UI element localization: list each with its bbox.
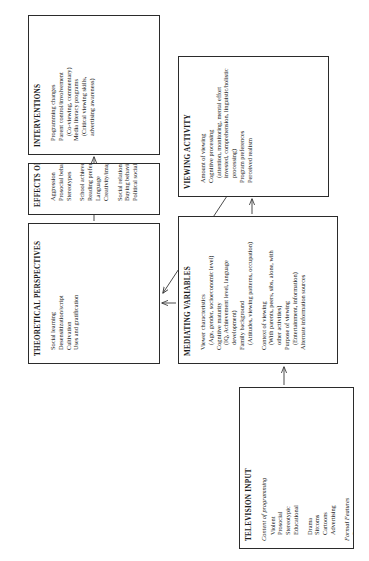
tv-input-group-formal-features-head: Formal Features: [343, 395, 350, 541]
mediating-group-viewer: Viewer characteristics (Age, gender, soc…: [199, 224, 254, 356]
list-item: (IQ, Achievement level, language: [222, 224, 230, 350]
list-item: Program preferences: [238, 64, 246, 183]
box-interventions: INTERVENTIONS Programming changes Parent…: [28, 15, 160, 155]
viewing-activity-group: Amount of viewing Cognitive processing (…: [199, 64, 254, 189]
list-item: Cultivation: [65, 231, 73, 350]
box-television-input: TELEVISION INPUT Content of programming …: [239, 387, 354, 549]
list-item: (Critical viewing skills,: [80, 23, 88, 141]
list-item: Stereotypes: [65, 171, 73, 201]
box-mediating-variables: MEDIATING VARIABLES Viewer characteristi…: [178, 216, 338, 364]
list-item: Stereotypic: [284, 395, 292, 535]
list-item: development): [230, 224, 238, 350]
mediating-group-context: Context of viewing (With parents, peers,…: [260, 224, 307, 356]
list-item: (Age, gender, socioeconomic level): [207, 224, 215, 350]
list-item: Violent: [269, 395, 277, 535]
list-item: Uses and gratification: [72, 231, 80, 350]
list-item: Sitcoms: [313, 395, 321, 535]
list-item: Media literacy programs: [72, 23, 80, 141]
list-item: other activities): [275, 224, 283, 350]
tv-input-group-content: Content of programming Violent Prosocial…: [260, 395, 300, 541]
list-item: (Entertainment, information): [291, 224, 299, 350]
list-item: Cognitive maturity: [215, 224, 223, 350]
list-item: advertising awareness): [88, 23, 96, 141]
theoretical-perspectives-group: Social learning Desensitization/script C…: [49, 231, 80, 356]
list-item: (Co-viewing, commentary): [65, 23, 73, 141]
list-item: Creativity/imagination: [102, 171, 110, 201]
list-item: Reading preferences: [86, 171, 94, 201]
list-item: Language: [94, 171, 102, 201]
list-item: Parent control/involvement: [57, 23, 65, 141]
list-item: Social relationships: [116, 171, 124, 201]
list-item: Family background: [238, 224, 246, 350]
box-viewing-activity-title: VIEWING ACTIVITY: [184, 64, 192, 189]
list-item: Educational: [292, 395, 300, 535]
tv-input-group-formal-features: Formal Features Pace Continuity Animatio…: [343, 395, 354, 541]
list-item: (attention, monitoring, mental effort: [215, 64, 223, 183]
effects-group-cognitive: School achievement Reading preferences L…: [78, 171, 109, 207]
list-item: Desensitization/script: [57, 231, 65, 350]
list-item: School achievement: [78, 171, 86, 201]
box-mediating-variables-title: MEDIATING VARIABLES: [184, 224, 192, 356]
list-item: Pace: [351, 395, 354, 535]
box-interventions-title: INTERVENTIONS: [34, 23, 42, 147]
list-item: Political socialization: [131, 171, 139, 201]
effects-group-relational: Social relationships Buying behavior Pol…: [116, 171, 139, 207]
box-viewing-activity: VIEWING ACTIVITY Amount of viewing Cogni…: [178, 56, 329, 197]
list-item: Prosocial behavior: [57, 171, 65, 201]
list-item: Cartoons: [321, 395, 329, 535]
flowchart-canvas: TELEVISION INPUT Content of programming …: [0, 0, 369, 561]
list-item: processing): [230, 64, 238, 183]
list-item: Programming changes: [49, 23, 57, 141]
list-item: (Attitudes, viewing patterns, occupation…: [246, 224, 254, 350]
list-item: Context of viewing: [260, 224, 268, 350]
list-item: Social learning: [49, 231, 57, 350]
box-theoretical-perspectives-title: THEORETICAL PERSPECTIVES: [34, 231, 42, 356]
list-item: invested, comprehension, linguistic/holi…: [222, 64, 230, 183]
tv-input-group-genres: Drama Sitcoms Cartoons Advertising: [306, 395, 337, 541]
interventions-group: Programming changes Parent control/invol…: [49, 23, 96, 147]
list-item: Alternate information sources: [299, 224, 307, 350]
list-item: Buying behavior: [123, 171, 131, 201]
box-theoretical-perspectives: THEORETICAL PERSPECTIVES Social learning…: [28, 223, 160, 364]
list-item: Drama: [306, 395, 314, 535]
box-effects-on-behavior-title: EFFECTS ON BEHAVIOR: [34, 171, 42, 207]
list-item: Viewer characteristics: [199, 224, 207, 350]
list-item: Prosocial: [276, 395, 284, 535]
effects-group-social: Aggression Prosocial behavior Stereotype…: [49, 171, 72, 207]
list-item: (With parents, peers, sibs, alone, with: [267, 224, 275, 350]
list-item: Perceived realism: [246, 64, 254, 183]
tv-input-group-content-head: Content of programming: [260, 395, 267, 541]
list-item: Amount of viewing: [199, 64, 207, 183]
list-item: Cognitive processing: [207, 64, 215, 183]
list-item: Purpose of viewing: [283, 224, 291, 350]
box-television-input-title: TELEVISION INPUT: [245, 395, 253, 541]
list-item: Advertising: [329, 395, 337, 535]
box-effects-on-behavior: EFFECTS ON BEHAVIOR Aggression Prosocial…: [28, 163, 160, 215]
diagram-rotation-wrapper: TELEVISION INPUT Content of programming …: [0, 0, 369, 561]
list-item: Aggression: [49, 171, 57, 201]
